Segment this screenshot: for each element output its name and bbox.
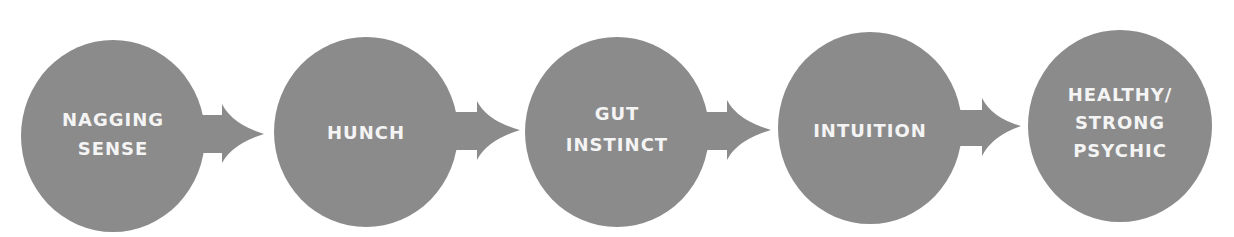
stage-label-line: NAGGING <box>62 109 164 130</box>
stage-hunch: HUNCH <box>274 37 458 227</box>
stage-label-line: GUT <box>595 103 640 124</box>
stage-gut-instinct: GUT INSTINCT <box>525 37 709 227</box>
stage-label-line: INSTINCT <box>566 134 668 155</box>
stage-label-line: INTUITION <box>813 120 927 141</box>
arrow-4-icon <box>955 98 1021 156</box>
stage-label-line: SENSE <box>78 138 149 159</box>
stage-label-line: HUNCH <box>327 122 405 143</box>
stage-nagging-sense: NAGGING SENSE <box>21 40 205 232</box>
stage-label-line: STRONG <box>1075 112 1165 133</box>
arrow-1-icon <box>195 104 264 163</box>
arrow-2-icon <box>450 101 520 160</box>
stage-intuition: INTUITION <box>778 32 962 224</box>
stage-label-line: HEALTHY/ <box>1068 84 1173 105</box>
arrow-3-icon <box>700 100 771 160</box>
progression-diagram: NAGGING SENSE HUNCH GUT INSTINCT INTUITI… <box>0 0 1234 237</box>
stage-healthy-strong-psychic: HEALTHY/ STRONG PSYCHIC <box>1028 30 1212 222</box>
stage-label-line: PSYCHIC <box>1073 140 1167 161</box>
